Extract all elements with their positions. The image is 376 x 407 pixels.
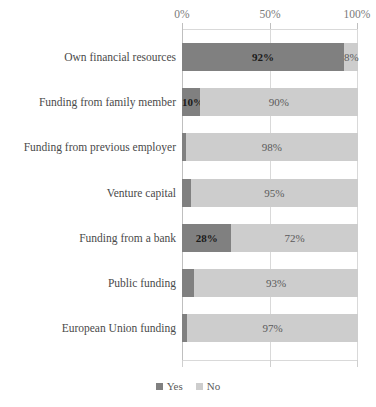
bar-value-label-no: 90%	[200, 88, 358, 116]
bar-segment-yes[interactable]: 28%	[182, 224, 231, 252]
bar-track: 7%93%	[182, 269, 358, 297]
table-row: Venture capital5%95%	[0, 179, 376, 207]
bar-segment-no[interactable]: 72%	[231, 224, 358, 252]
legend-label-yes: Yes	[167, 380, 183, 392]
bar-segment-no[interactable]: 95%	[191, 179, 358, 207]
bar-segment-no[interactable]: 98%	[186, 133, 358, 161]
bar-value-label-yes: 10%	[182, 88, 200, 116]
bar-track: 2%98%	[182, 133, 358, 161]
category-label: European Union funding	[62, 314, 176, 342]
bar-value-label-no: 95%	[191, 179, 358, 207]
bar-segment-yes[interactable]: 92%	[182, 43, 344, 71]
x-axis-tick-labels: 0% 50% 100%	[0, 7, 376, 23]
legend-label-no: No	[207, 380, 220, 392]
table-row: Funding from family member10%90%	[0, 88, 376, 116]
x-axis-tick-marks-bottom	[182, 360, 358, 367]
x-tick-label-100: 100%	[344, 7, 371, 21]
bar-segment-no[interactable]: 97%	[187, 314, 358, 342]
legend-item-no[interactable]: No	[196, 380, 220, 392]
bar-value-label-no: 97%	[187, 314, 358, 342]
category-label: Venture capital	[107, 179, 176, 207]
bar-segment-yes[interactable]: 5%	[182, 179, 191, 207]
bar-track: 92%8%	[182, 43, 358, 71]
legend-swatch-no-icon	[196, 383, 203, 390]
table-row: Funding from previous employer2%98%	[0, 133, 376, 161]
category-label: Own financial resources	[64, 43, 176, 71]
bar-segment-no[interactable]: 93%	[194, 269, 358, 297]
category-label: Public funding	[108, 269, 176, 297]
table-row: European Union funding3%97%	[0, 314, 376, 342]
bar-track: 3%97%	[182, 314, 358, 342]
category-label: Funding from previous employer	[24, 133, 176, 161]
chart-legend: Yes No	[0, 378, 376, 394]
bar-value-label-yes: 92%	[182, 43, 344, 71]
tick-mark-bottom-0	[182, 360, 183, 367]
table-row: Funding from a bank28%72%	[0, 224, 376, 252]
bar-track: 28%72%	[182, 224, 358, 252]
bar-value-label-no: 93%	[194, 269, 358, 297]
bar-value-label-no: 72%	[231, 224, 358, 252]
table-row: Public funding7%93%	[0, 269, 376, 297]
bar-segment-yes[interactable]: 7%	[182, 269, 194, 297]
tick-mark-bottom-100	[357, 360, 358, 367]
bar-segment-no[interactable]: 8%	[344, 43, 358, 71]
bar-segment-yes[interactable]: 10%	[182, 88, 200, 116]
category-label: Funding from family member	[39, 88, 176, 116]
bar-track: 5%95%	[182, 179, 358, 207]
bar-segment-no[interactable]: 90%	[200, 88, 358, 116]
legend-swatch-yes-icon	[156, 383, 163, 390]
bar-value-label-no: 98%	[186, 133, 358, 161]
tick-mark-bottom-50	[270, 360, 271, 367]
x-tick-label-50: 50%	[259, 7, 280, 21]
bar-track: 10%90%	[182, 88, 358, 116]
category-label: Funding from a bank	[79, 224, 176, 252]
x-tick-label-0: 0%	[174, 7, 189, 21]
bar-value-label-yes: 28%	[182, 224, 231, 252]
bar-value-label-no: 8%	[344, 43, 358, 71]
stacked-bar-chart: 0% 50% 100% Own financial resources92%8%…	[0, 0, 376, 407]
table-row: Own financial resources92%8%	[0, 43, 376, 71]
legend-item-yes[interactable]: Yes	[156, 380, 183, 392]
